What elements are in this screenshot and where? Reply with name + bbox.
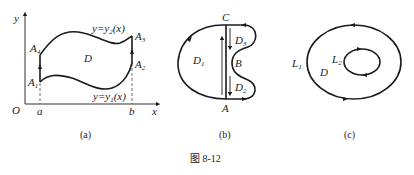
x-mark-b: b (129, 105, 135, 117)
point-A: A (221, 102, 229, 114)
curve-L2-label: L2 (331, 53, 342, 67)
lower-curve-label: y=y1(x) (92, 90, 126, 104)
x-mark-a: a (37, 105, 43, 117)
panel-c: L1 L2 D (c) (291, 23, 401, 141)
caption-a: (a) (80, 129, 91, 141)
point-A2: A2 (134, 58, 146, 72)
lower-curve (40, 63, 132, 89)
arrow-icon (241, 23, 246, 27)
region-D3: D3 (234, 34, 247, 48)
upper-curve-label: y=y2(x) (91, 22, 125, 36)
point-A4: A4 (29, 42, 41, 56)
curve-L1-label: L1 (291, 57, 302, 71)
inner-curve-L2 (344, 49, 380, 75)
arrow-icon (343, 97, 348, 101)
caption-c: (c) (344, 129, 355, 141)
arrow-icon (350, 23, 355, 27)
region-D1: D1 (192, 54, 204, 68)
point-A3: A3 (134, 30, 146, 44)
arrow-icon (357, 47, 362, 51)
panel-b: C A B D1 D3 D2 (b) (178, 11, 256, 141)
point-C: C (222, 11, 230, 23)
panel-a: y x O a b A4 A1 A3 A2 D y=y2(x) y=y1(x) … (12, 12, 158, 141)
arrow-up-icon (38, 64, 42, 69)
outer-curve-L1 (307, 25, 401, 99)
region-D2: D2 (234, 81, 247, 95)
y-axis-label: y (13, 12, 19, 24)
arrow-icon (362, 73, 367, 77)
x-axis-label: x (151, 105, 157, 117)
region-D: D (319, 66, 328, 78)
figure-8-12: y x O a b A4 A1 A3 A2 D y=y2(x) y=y1(x) … (0, 0, 414, 175)
figure-caption: 图 8-12 (190, 153, 221, 164)
point-B: B (235, 57, 242, 69)
origin-label: O (12, 104, 20, 116)
region-D: D (83, 52, 92, 64)
point-A1: A1 (27, 76, 38, 90)
caption-b: (b) (219, 129, 231, 141)
arrow-icon (242, 97, 247, 101)
arrow-up-icon (130, 49, 134, 54)
